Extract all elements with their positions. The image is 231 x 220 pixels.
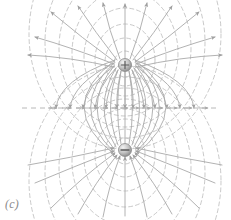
field-line [135, 12, 199, 62]
field-line [135, 153, 199, 208]
field-line [78, 155, 117, 214]
field-line [118, 71, 122, 144]
field-line [51, 12, 115, 62]
field-lines [28, 3, 222, 217]
field-line [130, 156, 147, 217]
positive-charge [119, 59, 132, 72]
field-line [129, 71, 133, 144]
panel-label: (c) [5, 197, 19, 212]
field-line [133, 155, 172, 214]
negative-charge [119, 144, 132, 157]
field-line [103, 156, 120, 217]
field-line [103, 3, 120, 59]
dipole-field-diagram [0, 0, 231, 220]
field-line [130, 3, 147, 59]
dipole-figure: (c) [0, 0, 231, 220]
